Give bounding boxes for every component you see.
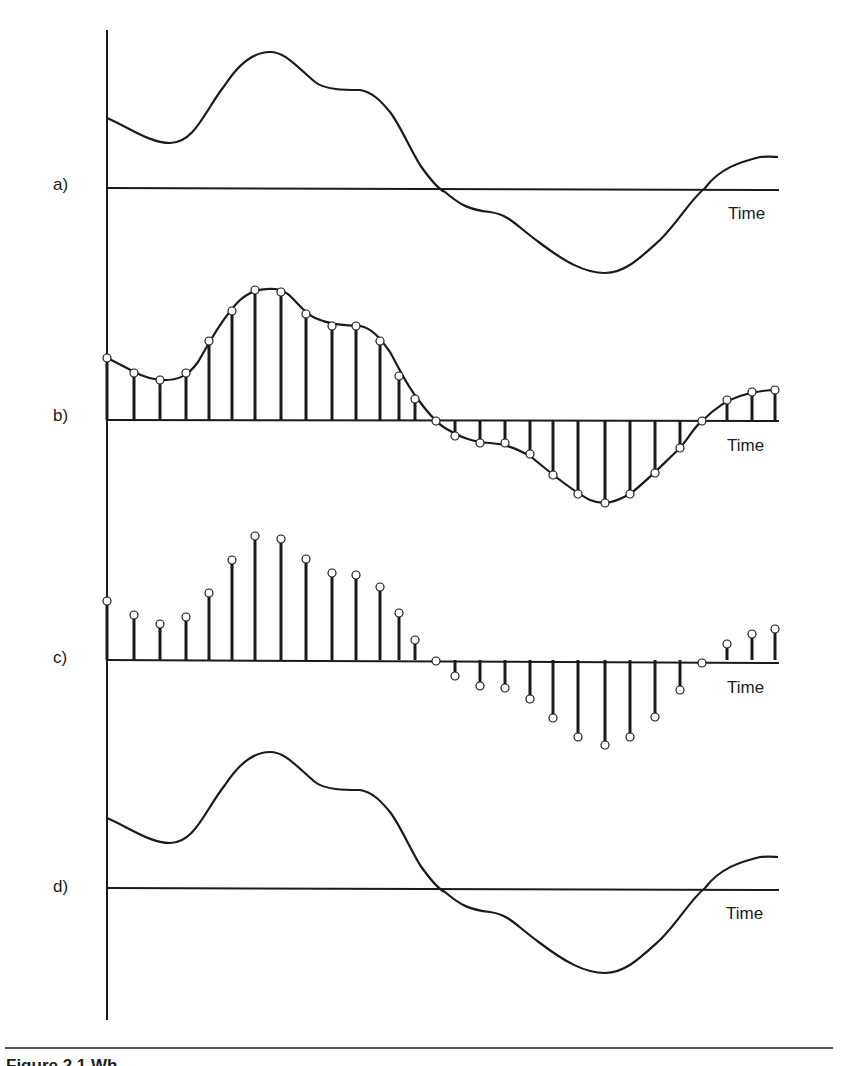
- sample-point-icon: [277, 535, 285, 543]
- sample-point-icon: [228, 307, 236, 315]
- sample-point-icon: [574, 733, 582, 741]
- sample-stems-c: [103, 532, 779, 749]
- sample-point-icon: [698, 417, 706, 425]
- sample-point-icon: [574, 490, 582, 498]
- sampling-figure: a) b) c) d) Time Time Time Time Figure 2…: [0, 0, 841, 1066]
- sample-point-icon: [601, 499, 609, 507]
- sample-point-icon: [451, 432, 459, 440]
- sample-point-icon: [698, 659, 706, 667]
- sample-point-icon: [328, 322, 336, 330]
- sample-point-icon: [651, 713, 659, 721]
- sample-point-icon: [156, 620, 164, 628]
- sample-point-icon: [501, 684, 509, 692]
- sample-point-icon: [748, 630, 756, 638]
- time-label-b: Time: [727, 436, 764, 456]
- caption-divider: [5, 1047, 833, 1049]
- sample-point-icon: [130, 369, 138, 377]
- sample-point-icon: [352, 571, 360, 579]
- sample-point-icon: [156, 376, 164, 384]
- sample-point-icon: [476, 439, 484, 447]
- sample-point-icon: [626, 733, 634, 741]
- panel-label-c: c): [53, 648, 67, 668]
- waveform-d: [107, 752, 778, 973]
- sample-point-icon: [626, 490, 634, 498]
- sample-point-icon: [205, 589, 213, 597]
- sample-point-icon: [103, 354, 111, 362]
- figure-caption: Figure 2.1 Wh: [6, 1055, 117, 1066]
- panel-label-d: d): [53, 877, 68, 897]
- sample-point-icon: [376, 583, 384, 591]
- time-label-c: Time: [727, 678, 764, 698]
- sample-point-icon: [549, 471, 557, 479]
- sample-point-icon: [501, 439, 509, 447]
- sample-point-icon: [748, 388, 756, 396]
- sample-point-icon: [549, 714, 557, 722]
- sample-point-icon: [251, 532, 259, 540]
- sample-point-icon: [205, 337, 213, 345]
- sample-point-icon: [182, 613, 190, 621]
- sampling-diagram: [0, 0, 841, 1066]
- sample-point-icon: [103, 597, 111, 605]
- sample-point-icon: [451, 672, 459, 680]
- waveform-a: [107, 52, 778, 273]
- panel-label-b: b): [53, 406, 68, 426]
- sample-point-icon: [395, 609, 403, 617]
- panel-c-plot: [103, 532, 779, 749]
- sample-point-icon: [601, 741, 609, 749]
- sample-point-icon: [302, 555, 310, 563]
- time-axis-b: [107, 420, 779, 421]
- sample-point-icon: [182, 369, 190, 377]
- time-axis-c: [107, 660, 779, 663]
- sample-point-icon: [328, 569, 336, 577]
- panel-a-plot: [107, 52, 779, 273]
- sample-point-icon: [676, 686, 684, 694]
- sample-point-icon: [130, 611, 138, 619]
- sample-stems-b: [103, 286, 779, 507]
- sample-point-icon: [411, 395, 419, 403]
- panel-label-a: a): [53, 175, 68, 195]
- sample-point-icon: [376, 337, 384, 345]
- sample-point-icon: [432, 417, 440, 425]
- time-label-a: Time: [728, 204, 765, 224]
- panel-d-plot: [107, 752, 779, 973]
- sample-point-icon: [676, 444, 684, 452]
- sample-point-icon: [723, 640, 731, 648]
- sample-point-icon: [228, 556, 236, 564]
- panel-b-plot: [103, 286, 779, 507]
- time-label-d: Time: [726, 904, 763, 924]
- sample-point-icon: [526, 450, 534, 458]
- sample-point-icon: [302, 310, 310, 318]
- sample-point-icon: [411, 636, 419, 644]
- sample-point-icon: [395, 372, 403, 380]
- sample-point-icon: [723, 396, 731, 404]
- sample-point-icon: [476, 682, 484, 690]
- sample-point-icon: [771, 386, 779, 394]
- sample-point-icon: [352, 322, 360, 330]
- sample-point-icon: [651, 469, 659, 477]
- sample-point-icon: [432, 657, 440, 665]
- sample-point-icon: [277, 288, 285, 296]
- sample-point-icon: [771, 625, 779, 633]
- sample-point-icon: [526, 695, 534, 703]
- sample-point-icon: [251, 286, 259, 294]
